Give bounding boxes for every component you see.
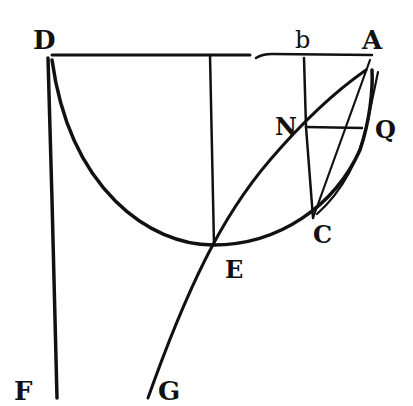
- line-DA-right: [256, 54, 372, 58]
- line-NQ: [306, 127, 362, 128]
- line-bC: [304, 58, 313, 218]
- label-A: A: [362, 27, 382, 53]
- label-E: E: [225, 258, 243, 282]
- label-F: F: [14, 378, 32, 404]
- label-G: G: [158, 378, 180, 404]
- line-vertical-E: [210, 55, 214, 245]
- curve-ANEG: [148, 70, 366, 398]
- label-C: C: [313, 223, 332, 247]
- label-Q: Q: [375, 118, 396, 142]
- diagram-drawing: [0, 0, 413, 406]
- line-DF: [48, 58, 57, 398]
- line-AC: [313, 60, 370, 218]
- label-N: N: [275, 115, 297, 139]
- curve-AQC: [317, 72, 378, 214]
- geometric-diagram: D b A N Q C E F G: [0, 0, 413, 406]
- label-D: D: [33, 27, 56, 53]
- label-b: b: [295, 28, 310, 52]
